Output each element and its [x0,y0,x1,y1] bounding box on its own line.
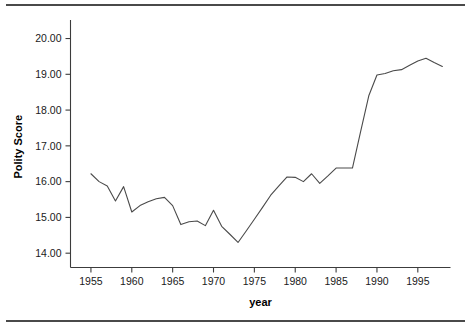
x-tick-label: 1985 [324,275,348,287]
series-group [91,58,442,242]
y-tick-label: 15.00 [35,211,61,223]
x-tick-label: 1990 [365,275,389,287]
x-tick-label: 1975 [243,275,267,287]
y-tick-label: 20.00 [35,32,61,44]
y-tick-label: 19.00 [35,68,61,80]
x-tick-label: 1995 [406,275,430,287]
y-axis-ticks: 14.0015.0016.0017.0018.0019.0020.00 [35,32,70,259]
series-line-polity-score [91,58,442,242]
x-tick-label: 1960 [120,275,144,287]
y-tick-label: 18.00 [35,104,61,116]
y-axis-title: Polity Score [12,115,24,179]
y-axis-group: 14.0015.0016.0017.0018.0019.0020.00 [35,20,70,268]
x-axis-ticks: 195519601965197019751980198519901995 [79,268,429,287]
y-tick-label: 14.00 [35,247,61,259]
x-tick-label: 1970 [202,275,226,287]
x-tick-label: 1955 [79,275,103,287]
y-tick-label: 17.00 [35,140,61,152]
x-tick-label: 1965 [161,275,185,287]
line-chart: 14.0015.0016.0017.0018.0019.0020.00 1955… [0,0,471,330]
figure-container: 14.0015.0016.0017.0018.0019.0020.00 1955… [0,0,471,330]
x-axis-group: 195519601965197019751980198519901995 [71,268,451,287]
x-tick-label: 1980 [284,275,308,287]
x-axis-title: year [249,296,272,308]
y-tick-label: 16.00 [35,175,61,187]
